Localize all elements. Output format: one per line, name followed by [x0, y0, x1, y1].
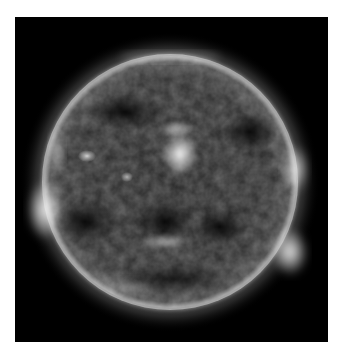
- east-limb-bright-region: [27, 180, 63, 240]
- west-limb-bright-region-upper: [281, 145, 309, 193]
- west-limb-bright-region-lower: [272, 228, 308, 276]
- solar-image-frame: [15, 17, 328, 342]
- sun-image: [15, 17, 328, 342]
